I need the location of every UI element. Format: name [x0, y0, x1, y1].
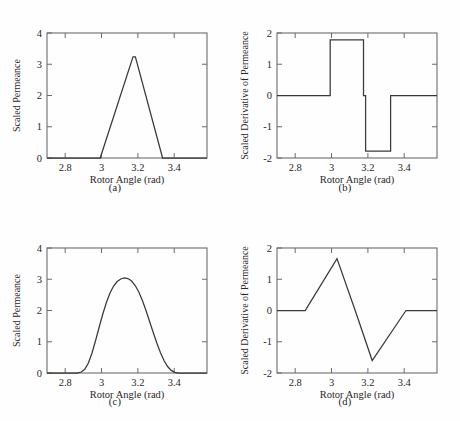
x-tick-label-d-1: 3	[329, 377, 334, 388]
x-tick-label-d-0: 2.8	[289, 377, 302, 388]
data-series-c	[47, 278, 207, 373]
panel-a: 0 1 2 3 4 2.8 3 3.2 3.4 Rotor Angle (rad…	[0, 0, 230, 210]
x-tick-label-a-0: 2.8	[59, 162, 72, 173]
y-ticks-a	[47, 33, 207, 158]
y-tick-label-c-3: 3	[37, 274, 42, 285]
y-tick-label-b-2: 0	[267, 90, 272, 101]
plot-c: 0 1 2 3 4 2.8 3 3.2 3.4 Rotor Angle (rad…	[0, 210, 230, 420]
data-series-a	[47, 57, 207, 158]
y-tick-label-d-2: 0	[267, 305, 272, 316]
y-tick-label-d-0: -2	[263, 368, 272, 379]
y-tick-label-c-1: 1	[37, 336, 42, 347]
y-tick-label-b-1: -1	[263, 121, 272, 132]
panel-c: 0 1 2 3 4 2.8 3 3.2 3.4 Rotor Angle (rad…	[0, 210, 230, 420]
x-ticks-d	[295, 248, 404, 373]
y-tick-label-a-1: 1	[37, 121, 42, 132]
y-tick-label-d-3: 1	[267, 274, 272, 285]
x-tick-label-c-1: 3	[99, 377, 104, 388]
x-tick-label-b-0: 2.8	[289, 162, 302, 173]
axis-frame-a	[47, 33, 207, 158]
panel-caption-a: (a)	[0, 182, 230, 193]
x-tick-label-d-2: 3.2	[361, 377, 374, 388]
y-axis-title-d: Scaled Derivative of Permeance	[239, 246, 250, 375]
y-tick-label-a-4: 4	[37, 28, 43, 39]
plot-a: 0 1 2 3 4 2.8 3 3.2 3.4 Rotor Angle (rad…	[0, 0, 230, 210]
y-tick-label-c-2: 2	[37, 305, 42, 316]
x-tick-label-c-3: 3.4	[168, 377, 182, 388]
panel-caption-d: (d)	[230, 396, 460, 407]
data-series-d	[277, 259, 437, 361]
figure-container: 0 1 2 3 4 2.8 3 3.2 3.4 Rotor Angle (rad…	[0, 0, 460, 421]
plot-d: -2 -1 0 1 2 2.8 3 3.2 3.4 Rotor Angle (r…	[230, 210, 460, 420]
y-tick-label-b-0: -2	[263, 153, 272, 164]
x-tick-label-b-3: 3.4	[398, 162, 412, 173]
y-tick-label-a-3: 3	[37, 59, 42, 70]
panel-b: -2 -1 0 1 2 2.8 3 3.2 3.4 Rotor Angle (r…	[230, 0, 460, 210]
y-axis-title-b: Scaled Derivative of Permeance	[239, 31, 250, 160]
y-tick-label-c-4: 4	[37, 243, 43, 254]
x-tick-label-b-1: 3	[329, 162, 334, 173]
y-tick-label-a-2: 2	[37, 90, 42, 101]
y-tick-label-c-0: 0	[37, 368, 42, 379]
y-tick-label-b-3: 1	[267, 59, 272, 70]
y-axis-title-c: Scaled Permeance	[11, 273, 22, 347]
x-tick-label-c-0: 2.8	[59, 377, 72, 388]
x-ticks-c	[65, 248, 174, 373]
x-tick-label-c-2: 3.2	[131, 377, 144, 388]
y-tick-label-d-4: 2	[267, 243, 272, 254]
plot-b: -2 -1 0 1 2 2.8 3 3.2 3.4 Rotor Angle (r…	[230, 0, 460, 210]
x-tick-label-d-3: 3.4	[398, 377, 412, 388]
y-tick-label-d-1: -1	[263, 336, 272, 347]
x-tick-label-b-2: 3.2	[361, 162, 374, 173]
axis-frame-c	[47, 248, 207, 373]
panel-d: -2 -1 0 1 2 2.8 3 3.2 3.4 Rotor Angle (r…	[230, 210, 460, 420]
panel-caption-c: (c)	[0, 396, 230, 407]
y-axis-title-a: Scaled Permeance	[11, 58, 22, 132]
y-ticks-c	[47, 248, 207, 373]
panel-caption-b: (b)	[230, 182, 460, 193]
y-tick-label-a-0: 0	[37, 153, 42, 164]
x-tick-label-a-2: 3.2	[131, 162, 144, 173]
y-tick-label-b-4: 2	[267, 28, 272, 39]
data-series-b	[277, 40, 437, 151]
x-tick-label-a-3: 3.4	[168, 162, 182, 173]
x-tick-label-a-1: 3	[99, 162, 104, 173]
